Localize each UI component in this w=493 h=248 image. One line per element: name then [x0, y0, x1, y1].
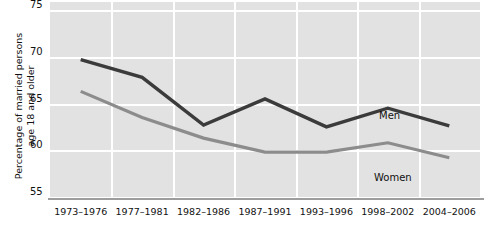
y-tick-label: 75 — [30, 0, 47, 10]
gridline-vertical — [111, 2, 113, 198]
gridline-vertical — [173, 2, 175, 198]
plot-area — [50, 2, 480, 198]
y-tick-label: 55 — [30, 187, 47, 197]
y-tick-label: 70 — [30, 47, 47, 57]
gridline-vertical — [357, 2, 359, 198]
y-axis-title: Percentage of married personsage 18 and … — [13, 6, 37, 206]
y-axis-title-line2: age 18 and older — [25, 66, 36, 147]
series-label-men: Men — [379, 110, 400, 121]
x-tick-label: 2004–2006 — [413, 206, 485, 217]
y-tick-label: 60 — [30, 140, 47, 150]
gridline-horizontal — [50, 104, 480, 106]
gridline-vertical — [296, 2, 298, 198]
series-label-women: Women — [374, 172, 412, 183]
gridline-horizontal — [50, 57, 480, 59]
x-axis-line — [48, 198, 484, 200]
line-chart: Percentage of married personsage 18 and … — [0, 0, 493, 248]
gridline-vertical — [419, 2, 421, 198]
gridline-horizontal — [50, 10, 480, 12]
y-tick-label: 65 — [30, 94, 47, 104]
gridline-vertical — [234, 2, 236, 198]
y-axis-title-line1: Percentage of married persons — [13, 33, 24, 179]
gridline-horizontal — [50, 150, 480, 152]
